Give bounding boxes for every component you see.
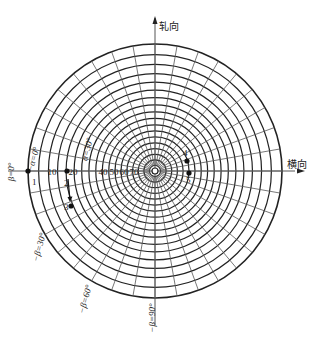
alpha-tick-label: 50: [110, 167, 120, 177]
data-point-label: 3: [64, 202, 69, 212]
beta-line: [157, 176, 199, 290]
alpha-tick-label: 20: [69, 167, 79, 177]
beta-line: [112, 52, 154, 166]
transverse-direction-label: 横向: [287, 158, 307, 170]
beta-line: [112, 176, 154, 290]
beta-line: [133, 46, 154, 166]
beta-line: [156, 46, 177, 166]
beta-line: [36, 173, 150, 215]
alpha-tick-label: 40: [99, 167, 109, 177]
angle-label: β=0°: [6, 162, 16, 182]
rolling-direction-label: 轧向: [159, 20, 179, 32]
alpha-tick-label: 60: [120, 167, 130, 177]
center-marker: [152, 168, 158, 174]
beta-line: [45, 108, 150, 169]
data-point-label: 4: [183, 148, 188, 158]
beta-line: [160, 108, 265, 169]
beta-line: [92, 176, 153, 281]
angle-label: −β=60°: [76, 283, 93, 314]
data-point-label: 5: [186, 175, 191, 185]
beta-line: [92, 61, 153, 166]
beta-line: [160, 172, 280, 193]
beta-line: [45, 174, 150, 235]
data-point-3: [68, 203, 73, 208]
rolling-axis-arrow-icon: [153, 16, 158, 24]
pole-figure-net: −α=0°α=30°β=0°−β=30°−β=60°−β=90° 1020405…: [0, 0, 319, 350]
data-point-label: 1: [32, 177, 37, 187]
beta-line: [157, 52, 199, 166]
alpha-tick-label: 70: [130, 167, 140, 177]
angle-label: −β=90°: [147, 303, 157, 333]
alpha-tick-labels: 102040506070: [48, 167, 140, 177]
beta-line: [158, 176, 219, 281]
angle-label: −β=30°: [30, 231, 47, 262]
beta-line: [133, 176, 154, 296]
data-point-1: [25, 168, 30, 173]
alpha-tick-label: 10: [48, 167, 58, 177]
beta-line: [156, 176, 177, 296]
beta-line: [160, 173, 274, 215]
beta-line: [158, 61, 219, 166]
beta-line: [160, 128, 274, 170]
data-point-2: [64, 168, 69, 173]
beta-line: [160, 174, 265, 235]
data-point-4: [184, 158, 189, 163]
beta-line: [160, 149, 280, 170]
beta-line: [36, 128, 150, 170]
